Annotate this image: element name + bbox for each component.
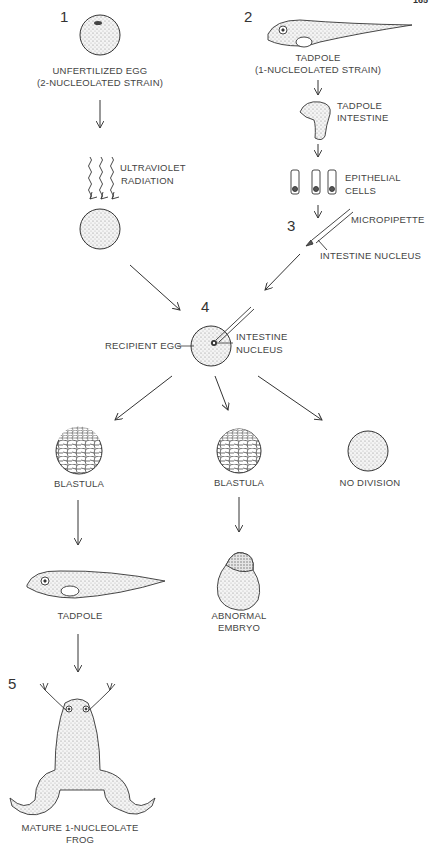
label-2-nucleolated-strain: (2-NUCLEOLATED STRAIN) bbox=[37, 77, 163, 89]
label-recipient-egg: RECIPIENT EGG bbox=[105, 340, 182, 352]
label-abnormal: ABNORMAL bbox=[212, 610, 267, 622]
irradiated-egg-icon bbox=[80, 209, 120, 249]
blastula-middle-icon bbox=[217, 429, 261, 473]
tadpole-icon bbox=[268, 20, 412, 47]
undivided-egg-icon bbox=[348, 431, 388, 471]
label-blastula-left: BLASTULA bbox=[54, 478, 104, 490]
label-epithelial: EPITHELIAL bbox=[345, 172, 401, 184]
arrow-icon bbox=[130, 265, 180, 310]
arrow-icon bbox=[115, 376, 172, 420]
arrow-icon bbox=[258, 376, 322, 420]
step-number-3: 3 bbox=[287, 217, 295, 234]
label-unfertilized-egg: UNFERTILIZED EGG bbox=[53, 65, 148, 77]
label-tadpole-top: TADPOLE bbox=[295, 52, 340, 64]
label-intestine-nucleus-top: INTESTINE NUCLEUS bbox=[320, 250, 421, 262]
label-ultraviolet: ULTRAVIOLET bbox=[120, 162, 186, 174]
label-radiation: RADIATION bbox=[121, 175, 174, 187]
label-1-nucleolated-strain: (1-NUCLEOLATED STRAIN) bbox=[255, 64, 381, 76]
label-embryo: EMBRYO bbox=[218, 622, 260, 634]
tadpole-bottom-icon bbox=[27, 571, 165, 598]
label-no-division: NO DIVISION bbox=[340, 477, 401, 489]
arrow-icon bbox=[265, 254, 300, 290]
label-tadpole-intestine-2: INTESTINE bbox=[337, 112, 388, 124]
blastula-left-icon bbox=[56, 426, 102, 474]
tadpole-intestine-icon bbox=[300, 102, 330, 140]
micropipette-icon bbox=[306, 209, 353, 250]
label-cells: CELLS bbox=[345, 185, 376, 197]
epithelial-cells-icon bbox=[291, 170, 336, 194]
label-intestine-nucleus-2: NUCLEUS bbox=[236, 344, 283, 356]
label-micropipette: MICROPIPETTE bbox=[351, 214, 425, 226]
unfertilized-egg-icon bbox=[80, 15, 120, 55]
ultraviolet-radiation-icon bbox=[89, 157, 114, 199]
label-intestine-nucleus-1: INTESTINE bbox=[236, 331, 287, 343]
step-number-1: 1 bbox=[60, 8, 68, 25]
label-mature-frog-2: FROG bbox=[66, 834, 94, 846]
label-blastula-middle: BLASTULA bbox=[214, 477, 264, 489]
diagram-artwork bbox=[0, 0, 434, 850]
mature-frog-icon bbox=[10, 683, 155, 815]
step-number-4: 4 bbox=[201, 298, 209, 315]
step-number-2: 2 bbox=[244, 8, 252, 25]
label-mature-frog-1: MATURE 1-NUCLEOLATE bbox=[22, 822, 139, 834]
step-number-5: 5 bbox=[8, 675, 16, 692]
label-tadpole-bottom: TADPOLE bbox=[57, 610, 102, 622]
abnormal-embryo-icon bbox=[217, 553, 259, 611]
arrow-icon bbox=[215, 376, 228, 410]
label-tadpole-intestine-1: TADPOLE bbox=[337, 100, 382, 112]
